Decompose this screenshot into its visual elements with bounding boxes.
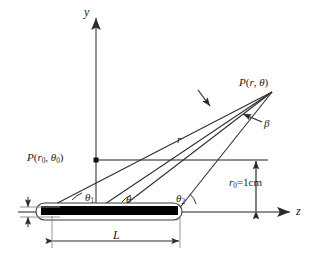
diagram-canvas: y z P(r, θ) P(r0, θ0) β r r0=1cm θ1 θ θ2… <box>0 0 314 258</box>
near-field-point-label: P(r0, θ0) <box>27 152 64 163</box>
far-point-paren-close: ) <box>265 76 269 88</box>
near-point-P: P <box>27 151 34 163</box>
pointer-arrow-beta <box>243 114 262 122</box>
radius-r-label: r <box>177 134 181 145</box>
theta1-subscript: 1 <box>90 197 94 205</box>
far-point-comma: , <box>254 76 257 88</box>
angle-arc-theta1 <box>72 193 82 200</box>
theta2-angle-label: θ2 <box>176 193 185 204</box>
far-field-point-label: P(r, θ) <box>239 77 268 88</box>
pointer-arrow-bundle <box>198 90 210 106</box>
ray-from-rod-right <box>178 92 272 210</box>
rod-conductor <box>41 206 178 215</box>
point-marker-near <box>94 158 99 163</box>
ray-r-from-origin <box>118 92 272 210</box>
near-point-comma: , <box>45 151 48 163</box>
angle-arc-theta2 <box>190 194 196 204</box>
length-L-label: L <box>113 229 120 241</box>
theta2-subscript: 2 <box>181 198 185 206</box>
z-axis-label: z <box>296 205 301 217</box>
beta-angle-label: β <box>264 118 269 129</box>
near-point-paren-close: ) <box>60 151 64 163</box>
y-axis-label: y <box>84 6 89 18</box>
diagram-svg <box>0 0 314 258</box>
far-point-P: P <box>239 76 246 88</box>
theta1-angle-label: θ1 <box>85 192 94 203</box>
ray-from-rod-left <box>44 92 272 210</box>
r0-distance-label: r0=1cm <box>229 177 262 188</box>
theta-angle-label: θ <box>126 194 131 205</box>
r0-value: =1cm <box>237 176 262 188</box>
